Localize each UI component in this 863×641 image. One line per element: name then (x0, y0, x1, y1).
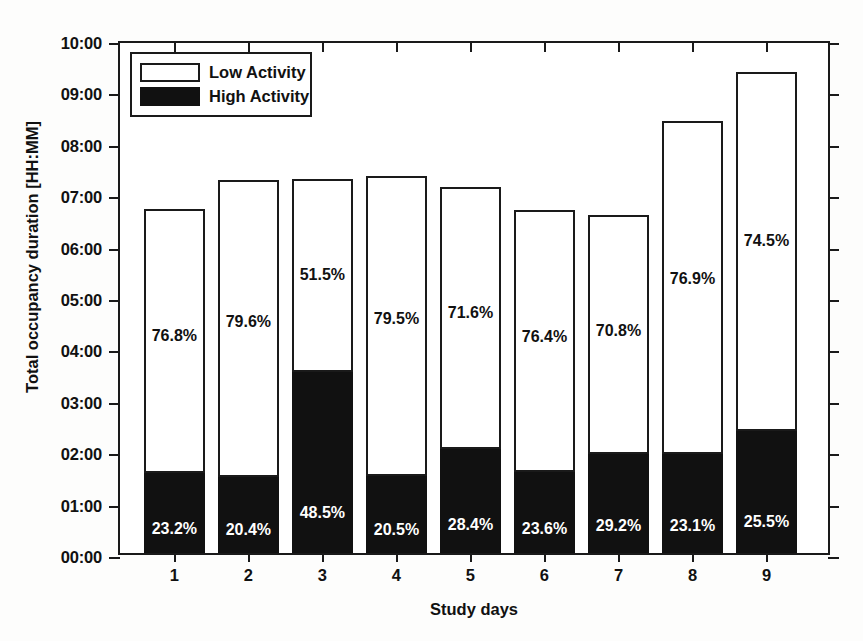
y-axis-tick-label: 10:00 (61, 34, 102, 53)
y-axis-tick-label: 07:00 (61, 188, 102, 207)
y-axis-tick-right (828, 351, 839, 353)
bar-label-low-activity: 71.6% (448, 304, 493, 322)
y-axis-tick: 02:00 (109, 454, 120, 456)
chart-legend: Low Activity High Activity (130, 52, 312, 117)
x-axis-tick (544, 553, 546, 562)
y-axis-tick-right (828, 454, 839, 456)
y-axis-tick-label: 02:00 (61, 445, 102, 464)
bar-segment-low-activity: 79.5% (366, 176, 427, 476)
y-axis-tick-right (828, 94, 839, 96)
y-axis-tick-right (828, 146, 839, 148)
y-axis-tick-right (828, 300, 839, 302)
y-axis-tick-right (828, 197, 839, 199)
x-axis-tick (174, 553, 176, 562)
bar-label-high-activity: 28.4% (448, 516, 493, 534)
bar-label-high-activity: 23.2% (152, 520, 197, 538)
bar-label-low-activity: 76.4% (522, 328, 567, 346)
bar-segment-high-activity: 23.2% (144, 473, 205, 553)
bar-segment-low-activity: 70.8% (588, 215, 649, 454)
y-axis-tick: 05:00 (109, 300, 120, 302)
bar-label-low-activity: 76.8% (152, 327, 197, 345)
y-axis-tick-label: 00:00 (61, 548, 102, 567)
plot-area: 00:0001:0002:0003:0004:0005:0006:0007:00… (118, 41, 830, 555)
y-axis-tick-right (828, 557, 839, 559)
bar-label-low-activity: 74.5% (744, 232, 789, 250)
bar-segment-high-activity: 20.5% (366, 476, 427, 553)
bar-label-high-activity: 20.4% (226, 521, 271, 539)
y-axis-tick-label: 09:00 (61, 85, 102, 104)
bar-segment-low-activity: 76.9% (662, 121, 723, 454)
x-axis-tick (470, 553, 472, 562)
bar-segment-low-activity: 51.5% (292, 179, 353, 372)
legend-item-low-activity: Low Activity (140, 60, 302, 84)
legend-item-high-activity: High Activity (140, 84, 302, 108)
bar-segment-low-activity: 76.4% (514, 210, 575, 472)
bar-segment-low-activity: 79.6% (218, 180, 279, 477)
bar-group: 76.4%23.6% (514, 39, 575, 553)
y-axis-tick: 07:00 (109, 197, 120, 199)
x-axis-tick-label: 5 (466, 566, 475, 585)
bar-label-high-activity: 48.5% (300, 504, 345, 522)
bar-label-low-activity: 51.5% (300, 266, 345, 284)
bar-group: 70.8%29.2% (588, 39, 649, 553)
bar-segment-high-activity: 23.1% (662, 454, 723, 553)
x-axis-tick-label: 4 (392, 566, 401, 585)
x-axis-tick (766, 553, 768, 562)
bar-group: 71.6%28.4% (440, 39, 501, 553)
bar-label-low-activity: 70.8% (596, 322, 641, 340)
y-axis-tick-label: 08:00 (61, 137, 102, 156)
x-axis-tick (692, 553, 694, 562)
x-axis-tick (322, 553, 324, 562)
y-axis-tick: 08:00 (109, 146, 120, 148)
x-axis-tick-label: 9 (762, 566, 771, 585)
bar-label-high-activity: 23.1% (670, 517, 715, 535)
y-axis-tick-right (828, 506, 839, 508)
bar-segment-high-activity: 48.5% (292, 372, 353, 553)
bar-segment-low-activity: 76.8% (144, 209, 205, 474)
x-axis-tick-label: 7 (614, 566, 623, 585)
bar-segment-high-activity: 20.4% (218, 477, 279, 553)
x-axis-tick-label: 3 (318, 566, 327, 585)
y-axis-tick-right (828, 249, 839, 251)
bar-label-high-activity: 23.6% (522, 520, 567, 538)
bar-group: 76.9%23.1% (662, 39, 723, 553)
x-axis-tick-label: 8 (688, 566, 697, 585)
bar-label-high-activity: 29.2% (596, 517, 641, 535)
y-axis-tick: 06:00 (109, 249, 120, 251)
y-axis-tick: 01:00 (109, 506, 120, 508)
y-axis-tick-right (828, 43, 839, 45)
bar-label-low-activity: 79.5% (374, 310, 419, 328)
y-axis-tick: 09:00 (109, 94, 120, 96)
y-axis-tick-label: 05:00 (61, 291, 102, 310)
y-axis-tick-label: 06:00 (61, 240, 102, 259)
bar-label-high-activity: 25.5% (744, 513, 789, 531)
legend-label-high-activity: High Activity (209, 87, 309, 106)
bar-segment-high-activity: 25.5% (736, 431, 797, 553)
bar-segment-high-activity: 23.6% (514, 472, 575, 553)
legend-swatch-low-activity (140, 63, 200, 82)
x-axis-tick-label: 1 (170, 566, 179, 585)
x-axis-tick (396, 553, 398, 562)
legend-label-low-activity: Low Activity (209, 63, 306, 82)
bar-segment-high-activity: 28.4% (440, 449, 501, 553)
x-axis-title: Study days (118, 600, 830, 619)
y-axis-tick-right (828, 403, 839, 405)
y-axis-tick: 10:00 (109, 43, 120, 45)
y-axis-tick: 00:00 (109, 557, 120, 559)
x-axis-tick-label: 2 (244, 566, 253, 585)
bar-group: 74.5%25.5% (736, 39, 797, 553)
bar-segment-high-activity: 29.2% (588, 454, 649, 553)
x-axis-tick (248, 553, 250, 562)
y-axis-tick-label: 04:00 (61, 342, 102, 361)
y-axis-tick-label: 01:00 (61, 497, 102, 516)
bar-label-high-activity: 20.5% (374, 521, 419, 539)
y-axis-tick: 03:00 (109, 403, 120, 405)
y-axis-tick-label: 03:00 (61, 394, 102, 413)
y-axis-tick: 04:00 (109, 351, 120, 353)
x-axis-tick (618, 553, 620, 562)
bar-group: 79.5%20.5% (366, 39, 427, 553)
legend-swatch-high-activity (140, 87, 200, 106)
bar-segment-low-activity: 71.6% (440, 187, 501, 449)
y-axis-title: Total occupancy duration [HH:MM] (21, 0, 43, 514)
bar-label-low-activity: 79.6% (226, 313, 271, 331)
